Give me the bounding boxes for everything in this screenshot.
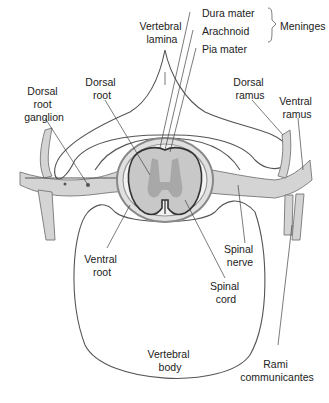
label-spinal-cord: Spinal cord (210, 280, 242, 305)
label-vertebral-lamina: Vertebral lamina (140, 20, 185, 45)
label-pia-mater: Pia mater (202, 43, 247, 55)
ganglion-cell-dot (64, 183, 67, 186)
label-dorsal-ramus: Dorsal ramus (233, 76, 266, 101)
leader-rami-communicantes (278, 225, 292, 345)
leader-ventral-ramus (298, 118, 303, 170)
leader-pia-mater (170, 48, 196, 152)
leader-arachnoid (165, 30, 193, 150)
meninges-brace (268, 8, 276, 42)
leader-ventral-root (107, 205, 130, 248)
label-arachnoid: Arachnoid (202, 25, 249, 37)
label-rami-communicantes: Rami communicantes (240, 358, 314, 383)
label-dorsal-root-ganglion: Dorsal root ganglion (24, 85, 64, 123)
right-spinal-nerve (200, 160, 312, 198)
left-dorsal-branch (40, 128, 52, 178)
label-spinal-nerve: Spinal nerve (224, 243, 256, 268)
spinal-cord-diagram: Vertebral lamina Dura mater Arachnoid Pi… (0, 0, 329, 403)
label-ventral-ramus: Ventral ramus (279, 95, 315, 120)
right-ventral-ramus-branch (292, 194, 304, 240)
label-dura-mater: Dura mater (202, 7, 255, 19)
left-ventral-ramus-branch (38, 190, 55, 240)
label-ventral-root: Ventral root (84, 253, 120, 278)
right-dorsal-ramus (278, 130, 291, 178)
label-vertebral-body: Vertebral body (148, 348, 193, 373)
label-meninges: Meninges (280, 20, 326, 32)
left-spinal-nerve (20, 168, 130, 196)
label-dorsal-root: Dorsal root (85, 76, 118, 101)
leader-spinal-cord (185, 200, 225, 278)
